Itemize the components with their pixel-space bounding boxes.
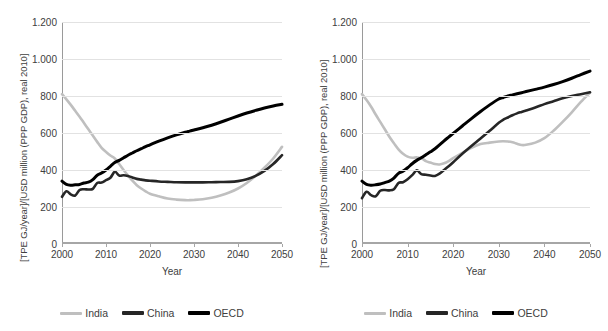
x-axis-tick-mark bbox=[590, 244, 591, 247]
plot-area-left: Year 02004006008001.0001.200200020102020… bbox=[62, 22, 282, 244]
line-series-india bbox=[362, 93, 590, 165]
gridline bbox=[362, 170, 590, 171]
y-axis-tick-label: 1.000 bbox=[332, 54, 357, 65]
x-axis-tick-label: 2040 bbox=[227, 249, 249, 260]
legend-swatch-icon bbox=[492, 311, 514, 316]
y-axis-tick-label: 200 bbox=[340, 202, 357, 213]
gridline bbox=[62, 207, 282, 208]
legend-item-oecd[interactable]: OECD bbox=[492, 307, 547, 319]
x-axis-tick-label: 2040 bbox=[533, 249, 555, 260]
line-series-oecd bbox=[62, 104, 282, 185]
legend-swatch-icon bbox=[122, 311, 144, 315]
legend-left: IndiaChinaOECD bbox=[0, 307, 304, 319]
x-axis-tick-mark bbox=[544, 244, 545, 247]
y-axis-title-left: [TPE GJ/year]/[USD million (PPP GDP), re… bbox=[18, 54, 29, 262]
legend-swatch-icon bbox=[60, 312, 82, 315]
y-axis-tick-label: 0 bbox=[51, 239, 57, 250]
two-panel-energy-intensity-figure: [TPE GJ/year]/[USD million (PPP GDP), re… bbox=[0, 0, 608, 331]
y-axis-tick-label: 800 bbox=[340, 91, 357, 102]
legend-item-india[interactable]: India bbox=[60, 307, 108, 319]
legend-swatch-icon bbox=[426, 311, 448, 315]
y-axis-tick-label: 600 bbox=[40, 128, 57, 139]
chart-panel-right: [TPE GJ/year]/[USD million (PPP GDP), re… bbox=[304, 0, 608, 331]
gridline bbox=[62, 133, 282, 134]
x-axis-tick-mark bbox=[238, 244, 239, 247]
legend-item-oecd[interactable]: OECD bbox=[188, 307, 243, 319]
x-axis-tick-label: 2000 bbox=[351, 249, 373, 260]
x-axis-tick-label: 2020 bbox=[139, 249, 161, 260]
x-axis-tick-mark bbox=[499, 244, 500, 247]
x-axis-tick-label: 2050 bbox=[579, 249, 601, 260]
x-axis-title-right: Year bbox=[362, 266, 590, 277]
x-axis-tick-mark bbox=[282, 244, 283, 247]
x-axis-tick-label: 2050 bbox=[271, 249, 293, 260]
gridline bbox=[362, 96, 590, 97]
y-axis-tick-label: 600 bbox=[340, 128, 357, 139]
legend-label: OECD bbox=[517, 307, 547, 319]
y-axis-tick-label: 1.200 bbox=[32, 17, 57, 28]
x-axis-tick-mark bbox=[150, 244, 151, 247]
legend-label: China bbox=[147, 307, 174, 319]
legend-swatch-icon bbox=[364, 312, 386, 315]
x-axis-tick-label: 2030 bbox=[183, 249, 205, 260]
gridline bbox=[62, 170, 282, 171]
clipped-title-remnant bbox=[96, 0, 99, 4]
y-axis-tick-label: 800 bbox=[40, 91, 57, 102]
x-axis-tick-mark bbox=[453, 244, 454, 247]
x-axis-tick-label: 2030 bbox=[488, 249, 510, 260]
x-axis-tick-mark bbox=[408, 244, 409, 247]
x-axis-tick-label: 2000 bbox=[51, 249, 73, 260]
y-axis-tick-label: 0 bbox=[351, 239, 357, 250]
y-axis-tick-label: 1.200 bbox=[332, 17, 357, 28]
x-axis-tick-mark bbox=[194, 244, 195, 247]
y-axis-title-right: [TPE GJ/year]/[USD million (PPP GDP), re… bbox=[318, 60, 329, 268]
x-axis-tick-label: 2010 bbox=[95, 249, 117, 260]
legend-swatch-icon bbox=[188, 311, 210, 316]
gridline bbox=[362, 133, 590, 134]
x-axis-title-left: Year bbox=[62, 266, 282, 277]
x-axis-tick-mark bbox=[62, 244, 63, 247]
chart-panel-left: [TPE GJ/year]/[USD million (PPP GDP), re… bbox=[0, 0, 304, 331]
legend-label: China bbox=[451, 307, 478, 319]
plot-area-right: Year 02004006008001.0001.200200020102020… bbox=[362, 22, 590, 244]
y-axis-tick-label: 200 bbox=[40, 202, 57, 213]
gridline bbox=[62, 96, 282, 97]
legend-label: India bbox=[85, 307, 108, 319]
gridline bbox=[362, 22, 590, 23]
x-axis-tick-mark bbox=[362, 244, 363, 247]
x-axis-tick-label: 2010 bbox=[396, 249, 418, 260]
legend-label: India bbox=[389, 307, 412, 319]
x-axis-tick-mark bbox=[106, 244, 107, 247]
legend-item-india[interactable]: India bbox=[364, 307, 412, 319]
legend-label: OECD bbox=[213, 307, 243, 319]
legend-item-china[interactable]: China bbox=[426, 307, 478, 319]
y-axis-tick-label: 1.000 bbox=[32, 54, 57, 65]
x-axis-tick-label: 2020 bbox=[442, 249, 464, 260]
gridline bbox=[62, 59, 282, 60]
gridline bbox=[362, 207, 590, 208]
gridline bbox=[362, 59, 590, 60]
y-axis-tick-label: 400 bbox=[340, 165, 357, 176]
y-axis-tick-label: 400 bbox=[40, 165, 57, 176]
gridline bbox=[62, 22, 282, 23]
legend-right: IndiaChinaOECD bbox=[304, 307, 608, 319]
legend-item-china[interactable]: China bbox=[122, 307, 174, 319]
